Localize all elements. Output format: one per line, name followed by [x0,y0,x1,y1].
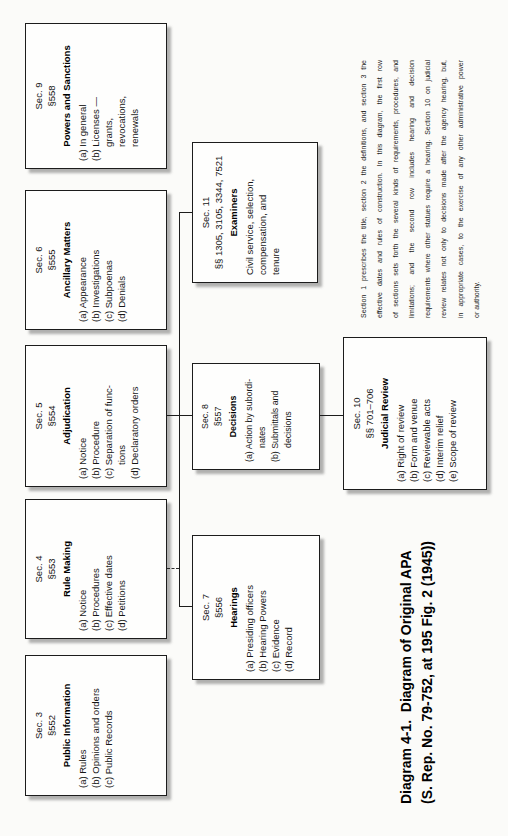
item-line: (b) Hearing Powers [256,543,269,672]
note-line: review relates not only to decisions mad… [436,60,452,318]
section-box-sec7: Sec. 7 §556 Hearings (a) Presiding offic… [192,535,320,680]
section-box-sec9: Sec. 9 §558 Powers and Sanctions (a) In … [25,23,167,169]
rotated-diagram-canvas: Sec. 3 §552 Public Information (a) Rules… [0,0,508,836]
item-continuation-line: grants, [102,31,115,161]
item-line: (b) Submittals and [269,371,282,462]
item-line: (b) Form and venue [407,345,420,482]
section-number: Sec. 11 [199,150,212,275]
item-line: (a) Notice [76,507,89,631]
item-line: (d) Interim relief [433,345,446,482]
item-line: Civil service, selection, [243,150,256,275]
item-continuation-line: tenure [269,150,282,275]
item-line: (a) Presiding officers [243,543,256,672]
item-line: (a) Action by subordi- [243,371,256,462]
item-line: (c) Reviewable acts [420,345,433,482]
section-citation: §552 [45,663,58,788]
scanned-book-page: Sec. 3 §552 Public Information (a) Rules… [0,0,508,836]
item-continuation-line: tions [115,353,128,479]
item-continuation-line: decisions [282,371,295,462]
item-line: (c) Separation of func- [102,353,115,479]
note-line: Section 1 prescribes the title, section … [356,60,372,318]
note-paragraph: Section 1 prescribes the title, section … [356,60,485,318]
section-title: Public Information [60,663,73,788]
item-line: (c) Effective dates [102,507,115,631]
section-citation: §556 [212,543,225,672]
item-line: (d) Declaratory orders [128,353,141,479]
section-items: Civil service, selection,compensation, a… [243,150,282,275]
section-items: (a) Notice(b) Procedure(c) Separation of… [76,353,141,479]
section-citation: §555 [45,198,58,322]
connector-sec4-dashed [167,568,179,569]
section-title: Powers and Sanctions [60,31,73,161]
section-title: Examiners [227,150,240,275]
item-line: (e) Scope of review [446,345,459,482]
figure-caption-line2: (S. Rep. No. 79-752, at 195 Fig. 2 (1945… [417,541,438,804]
section-items: (a) Right of review(b) Form and venue(c)… [394,345,459,482]
section-citation: §558 [45,31,58,161]
section-box-sec4: Sec. 4 §553 Rule Making (a) Notice(b) Pr… [25,499,167,639]
section-title: Rule Making [60,507,73,631]
section-title: Hearings [227,543,240,672]
item-line: (c) Subpoenas [102,198,115,322]
section-items: (a) Presiding officers(b) Hearing Powers… [243,543,295,672]
section-citation: §553 [45,507,58,631]
section-box-sec6: Sec. 6 §555 Ancillary Matters (a) Appear… [25,190,167,330]
section-number: Sec. 5 [32,353,45,479]
note-line: or authority. [469,60,485,318]
item-continuation-line: nates [256,371,269,462]
item-line: (b) Opinions and orders [89,663,102,788]
connector-bus-line [179,212,180,607]
section-number: Sec. 10 [350,345,363,482]
item-line: (c) Evidence [269,543,282,672]
figure-caption-line1: Diagram 4-1. Diagram of Original APA [396,541,417,804]
section-number: Sec. 4 [32,507,45,631]
section-citation: §§ 1305, 3105, 3344, 7521 [212,150,225,275]
item-continuation-line: compensation, and [256,150,269,275]
section-items: (a) Action by subordi-nates(b) Submittal… [243,371,295,462]
item-line: (c) Public Records [102,663,115,788]
item-line: (b) Investigations [89,198,102,322]
section-number: Sec. 7 [199,543,212,672]
section-items: (a) Rules(b) Opinions and orders(c) Publ… [76,663,115,788]
item-line: (b) Procedures [89,507,102,631]
figure-caption: Diagram 4-1. Diagram of Original APA (S.… [396,541,437,804]
item-line: (a) In general [76,31,89,161]
section-items: (a) Appearance(b) Investigations(c) Subp… [76,198,128,322]
item-line: (a) Appearance [76,198,89,322]
section-box-sec10: Sec. 10 §§ 701–706 Judicial Review (a) R… [343,337,487,490]
section-box-sec8: Sec. 8 §557 Decisions (a) Action by subo… [192,363,320,470]
item-continuation-line: revocations, [115,31,128,161]
note-line: limitations; and the second row includes… [404,60,420,318]
connector-bus-to-sec11 [179,212,192,213]
item-continuation-line: renewals [128,31,141,161]
item-line: (d) Denials [115,198,128,322]
note-line: requirements where other statues require… [420,60,436,318]
section-title: Adjudication [60,353,73,479]
section-box-sec3: Sec. 3 §552 Public Information (a) Rules… [25,655,167,796]
item-line: (b) Procedure [89,353,102,479]
note-line: in appropriate cases, to the exercise of… [453,60,469,318]
section-number: Sec. 3 [32,663,45,788]
section-title: Judicial Review [378,345,391,482]
item-line: (a) Notice [76,353,89,479]
note-line: effective dates and rules of constructio… [372,60,388,318]
item-line: (d) Petitions [115,507,128,631]
section-citation: §554 [45,353,58,479]
section-citation: §§ 701–706 [363,345,376,482]
section-number: Sec. 8 [199,371,212,462]
item-line: (a) Right of review [394,345,407,482]
section-number: Sec. 6 [32,198,45,322]
connector-bus-to-sec7 [179,606,192,607]
connector-sec8-to-sec10 [320,415,343,416]
item-line: (d) Record [282,543,295,672]
section-number: Sec. 9 [32,31,45,161]
section-citation: §557 [212,371,225,462]
section-box-sec11: Sec. 11 §§ 1305, 3105, 3344, 7521 Examin… [192,142,318,283]
section-items: (a) In general(b) Licenses —grants,revoc… [76,31,141,161]
section-box-sec5: Sec. 5 §554 Adjudication (a) Notice(b) P… [25,345,167,487]
item-line: (a) Rules [76,663,89,788]
section-title: Ancillary Matters [60,198,73,322]
section-title: Decisions [227,371,240,462]
note-line: of sections sets forth the several kinds… [388,60,404,318]
connector-sec5-to-sec8 [167,415,192,416]
